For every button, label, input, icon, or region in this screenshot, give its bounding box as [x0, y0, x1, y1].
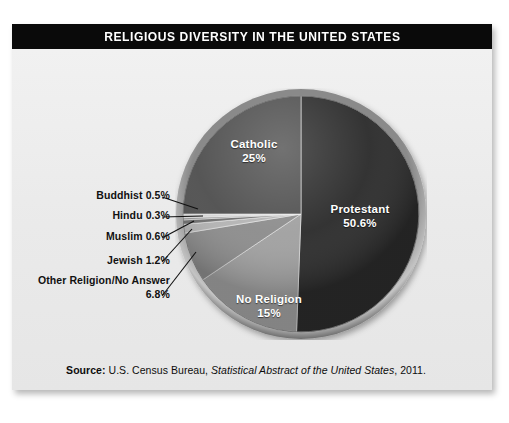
pie-svg: [175, 88, 427, 340]
pie-chart: [175, 88, 427, 340]
callout-label-buddhist: Buddhist 0.5%: [12, 189, 170, 203]
page-title: RELIGIOUS DIVERSITY IN THE UNITED STATES: [104, 29, 400, 44]
callout-label-muslim: Muslim 0.6%: [12, 230, 170, 244]
source-work-title: Statistical Abstract of the United State…: [211, 364, 394, 376]
callout-label-hindu: Hindu 0.3%: [12, 209, 170, 223]
source-note: Source: U.S. Census Bureau, Statistical …: [12, 364, 492, 376]
callout-label-jewish: Jewish 1.2%: [12, 254, 170, 268]
pie-gloss-overlay: [183, 96, 419, 332]
callout-label-other-line2: 6.8%: [12, 288, 170, 302]
chart-area: Catholic 25% Protestant 50.6% No Religio…: [12, 49, 492, 390]
callout-label-other-line1: Other Religion/No Answer: [12, 274, 170, 288]
callout-label-other-religion: Other Religion/No Answer 6.8%: [12, 274, 170, 301]
source-year: , 2011.: [394, 364, 426, 376]
source-prefix: Source:: [66, 364, 105, 376]
source-publisher: U.S. Census Bureau,: [106, 364, 212, 376]
chart-panel: RELIGIOUS DIVERSITY IN THE UNITED STATES: [12, 24, 492, 390]
chart-title-bar: RELIGIOUS DIVERSITY IN THE UNITED STATES: [12, 24, 492, 49]
